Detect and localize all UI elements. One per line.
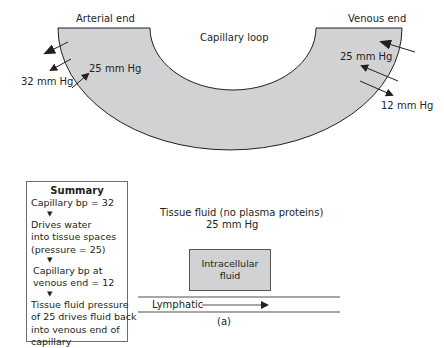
arterial-outside-pressure: 32 mm Hg xyxy=(21,76,73,88)
intracellular-fluid-box: Intracellular fluid xyxy=(189,249,271,291)
tissue-fluid-pressure: 25 mm Hg xyxy=(206,219,258,231)
summary-step-4: Tissue fluid pressure of 25 drives fluid… xyxy=(27,299,127,348)
figure-caption: (a) xyxy=(217,316,231,328)
venous-outside-pressure: 12 mm Hg xyxy=(381,100,433,112)
down-arrow-icon: ▼ xyxy=(27,210,127,219)
summary-step-3: Capillary bp at venous end = 12 xyxy=(27,265,127,290)
down-arrow-icon: ▼ xyxy=(27,256,127,265)
capillary-loop-label: Capillary loop xyxy=(200,32,269,44)
summary-step-2: Drives water into tissue spaces (pressur… xyxy=(27,219,127,256)
tissue-fluid-label: Tissue fluid (no plasma proteins) xyxy=(160,207,323,219)
summary-title: Summary xyxy=(27,185,127,197)
down-arrow-icon: ▼ xyxy=(27,290,127,299)
arterial-end-label: Arterial end xyxy=(76,13,135,25)
summary-step-1: Capillary bp = 32 xyxy=(27,197,127,209)
lymphatic-label: Lymphatic xyxy=(152,299,203,311)
capillary-loop-shape xyxy=(58,28,402,150)
venous-end-label: Venous end xyxy=(348,13,406,25)
summary-box: Summary Capillary bp = 32 ▼ Drives water… xyxy=(26,181,128,342)
venous-inside-pressure: 25 mm Hg xyxy=(340,51,392,63)
arterial-inside-pressure: 25 mm Hg xyxy=(89,63,141,75)
